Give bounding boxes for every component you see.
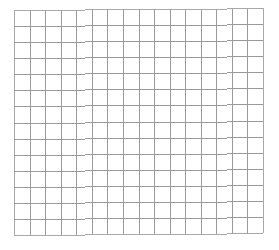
blank-grid	[14, 8, 263, 235]
grid-horizontal-line	[14, 89, 263, 91]
grid-horizontal-line	[14, 41, 263, 43]
grid-lines	[14, 8, 263, 235]
grid-horizontal-line	[14, 202, 263, 204]
grid-horizontal-line	[14, 73, 263, 75]
grid-horizontal-line	[14, 154, 263, 156]
grid-horizontal-line	[14, 170, 263, 172]
grid-horizontal-line	[14, 25, 263, 27]
grid-horizontal-line	[14, 122, 263, 124]
grid-horizontal-line	[14, 57, 263, 59]
grid-horizontal-line	[14, 9, 263, 11]
grid-horizontal-line	[14, 138, 263, 140]
grid-horizontal-line	[14, 186, 263, 188]
grid-horizontal-line	[14, 218, 263, 220]
grid-horizontal-line	[14, 105, 263, 107]
grid-horizontal-line	[14, 234, 263, 236]
